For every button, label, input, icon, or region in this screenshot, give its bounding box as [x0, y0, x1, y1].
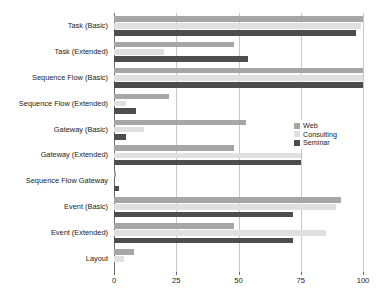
bar: [114, 16, 363, 22]
x-axis-ticks: 0255075100: [114, 272, 363, 292]
bar-slot: [114, 153, 363, 159]
bar: [114, 56, 248, 62]
bar-slot: [114, 223, 363, 229]
bar: [114, 249, 134, 255]
bar-slot: [114, 30, 363, 36]
y-axis-label: Event (Extended): [0, 229, 108, 236]
bar-group: [114, 249, 363, 269]
bar-slot: [114, 179, 363, 185]
bar-slot: [114, 171, 363, 177]
bar-slot: [114, 160, 363, 166]
bar: [114, 101, 126, 107]
bar-group: [114, 68, 363, 88]
bar: [114, 256, 124, 262]
x-tick-mark: [114, 272, 115, 275]
legend: WebConsultingSeminar: [292, 120, 340, 149]
legend-swatch-icon: [294, 123, 300, 129]
bar-slot: [114, 42, 363, 48]
x-tick-label: 100: [357, 277, 370, 285]
bar: [114, 230, 326, 236]
bar: [114, 197, 341, 203]
y-axis-label: Layout: [0, 255, 108, 262]
x-tick-label: 25: [172, 277, 180, 285]
x-tick-label: 0: [112, 277, 116, 285]
bar-slot: [114, 23, 363, 29]
bar: [114, 75, 363, 81]
legend-swatch-icon: [294, 140, 300, 146]
bar: [114, 82, 363, 88]
bar: [114, 238, 293, 244]
bar: [114, 108, 136, 114]
bar-slot: [114, 212, 363, 218]
bar: [114, 171, 116, 177]
bar: [114, 145, 234, 151]
y-axis-label: Task (Extended): [0, 48, 108, 55]
bar-slot: [114, 68, 363, 74]
legend-item: Seminar: [294, 139, 337, 146]
y-axis-label: Gateway (Extended): [0, 152, 108, 159]
bar-chart: Task (Basic)Task (Extended)Sequence Flow…: [0, 0, 380, 305]
bar-slot: [114, 56, 363, 62]
bar-slot: [114, 101, 363, 107]
bar: [114, 127, 144, 133]
bar-slot: [114, 82, 363, 88]
bar-slot: [114, 108, 363, 114]
bar-slot: [114, 49, 363, 55]
x-tick-mark: [176, 272, 177, 275]
bar-slot: [114, 204, 363, 210]
bar: [114, 68, 363, 74]
bar-group: [114, 42, 363, 62]
bar-group: [114, 197, 363, 217]
bar: [114, 160, 301, 166]
bar-slot: [114, 94, 363, 100]
bar-slot: [114, 249, 363, 255]
bar-slot: [114, 256, 363, 262]
bar: [114, 212, 293, 218]
legend-label: Web: [303, 122, 318, 129]
bar-slot: [114, 230, 363, 236]
gridline-100: [363, 13, 364, 272]
y-axis-label: Gateway (Basic): [0, 126, 108, 133]
y-axis-label: Sequence Flow Gateway: [0, 178, 108, 185]
bar: [114, 186, 119, 192]
bar-slot: [114, 238, 363, 244]
legend-label: Consulting: [303, 131, 337, 138]
y-axis-label: Sequence Flow (Basic): [0, 74, 108, 81]
bar: [114, 120, 246, 126]
x-tick-label: 75: [297, 277, 305, 285]
bar-slot: [114, 16, 363, 22]
legend-swatch-icon: [294, 131, 300, 137]
bar: [114, 30, 356, 36]
x-tick-label: 50: [234, 277, 242, 285]
y-axis-label: Sequence Flow (Extended): [0, 100, 108, 107]
bar-group: [114, 16, 363, 36]
bar-group: [114, 171, 363, 191]
legend-item: Consulting: [294, 131, 337, 138]
legend-label: Seminar: [303, 139, 330, 146]
bar-slot: [114, 263, 363, 269]
bar: [114, 94, 169, 100]
bar: [114, 223, 234, 229]
x-tick-mark: [363, 272, 364, 275]
y-axis-label: Task (Basic): [0, 22, 108, 29]
bar-slot: [114, 197, 363, 203]
x-tick-mark: [239, 272, 240, 275]
y-axis-category-labels: Task (Basic)Task (Extended)Sequence Flow…: [0, 13, 108, 272]
bar: [114, 42, 234, 48]
legend-item: Web: [294, 122, 337, 129]
bar-group: [114, 94, 363, 114]
x-tick-mark: [301, 272, 302, 275]
bar-slot: [114, 186, 363, 192]
bar: [114, 134, 126, 140]
bar-slot: [114, 75, 363, 81]
bar: [114, 49, 164, 55]
bar-group: [114, 223, 363, 243]
y-axis-label: Event (Basic): [0, 204, 108, 211]
bar: [114, 153, 301, 159]
bar: [114, 204, 336, 210]
bar: [114, 23, 361, 29]
